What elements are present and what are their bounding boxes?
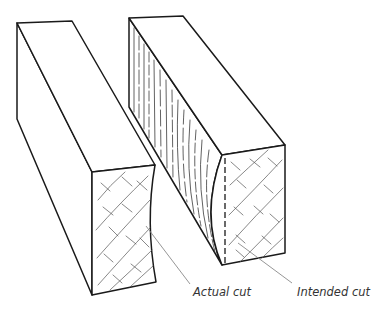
actual-cut-label: Actual cut [193, 285, 251, 299]
right-block [129, 16, 285, 265]
wood-cut-diagram [0, 0, 388, 329]
left-block-end-face [92, 165, 156, 295]
intended-cut-label: Intended cut [297, 285, 370, 299]
